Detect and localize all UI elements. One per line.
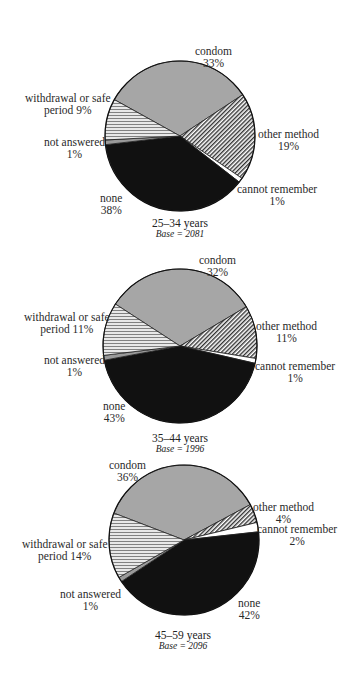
pie-45-59 <box>0 0 355 673</box>
label-not-answered: not answered1% <box>60 588 121 612</box>
caption-45-59: 45–59 years Base = 2096 <box>123 629 243 652</box>
pie-chart-45-59: condom36% other method4% cannot remember… <box>0 0 355 673</box>
label-condom: condom36% <box>109 459 146 483</box>
base-label: Base = 2096 <box>123 641 243 652</box>
label-withdrawal: withdrawal or safeperiod 14% <box>22 538 108 562</box>
label-none: none42% <box>238 597 260 621</box>
age-group-label: 45–59 years <box>123 629 243 641</box>
label-other-method: other method4% <box>253 501 314 525</box>
label-cannot-remember: cannot remember2% <box>257 523 337 547</box>
